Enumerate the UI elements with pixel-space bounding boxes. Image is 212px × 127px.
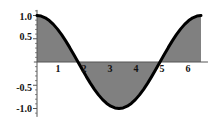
cosine-plot-figure: 1.0 0.5 -0.5 -1.0 1 2 3 4 5 6: [0, 0, 212, 127]
y-tick-label-1: 1.0: [6, 12, 32, 22]
x-tick-label-3: 3: [104, 64, 116, 74]
x-tick-label-1: 1: [52, 64, 64, 74]
y-tick-label-3: -0.5: [2, 83, 32, 93]
y-axis: [33, 10, 37, 117]
x-tick-label-2: 2: [78, 64, 90, 74]
x-tick-label-4: 4: [130, 64, 142, 74]
x-tick-label-6: 6: [182, 64, 194, 74]
y-tick-label-2: 0.5: [6, 32, 32, 42]
y-tick-label-4: -1.0: [2, 104, 32, 114]
x-tick-label-5: 5: [156, 64, 168, 74]
